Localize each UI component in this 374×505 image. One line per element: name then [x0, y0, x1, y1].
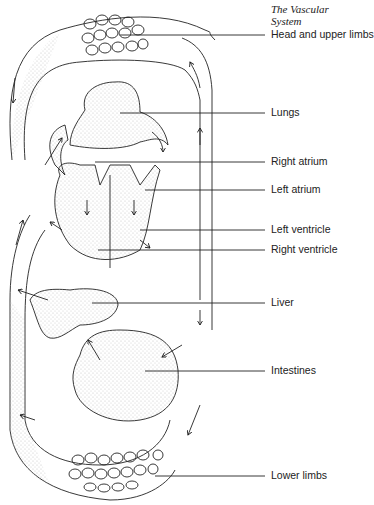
lungs	[70, 82, 168, 149]
label-left-atrium: Left atrium	[271, 183, 321, 195]
label-right-atrium: Right atrium	[271, 155, 328, 167]
heart	[55, 163, 160, 259]
label-lower-limbs: Lower limbs	[271, 469, 327, 481]
lower-limb-capillaries	[69, 450, 163, 492]
label-liver: Liver	[271, 296, 294, 308]
label-lungs: Lungs	[271, 106, 300, 118]
intestines	[73, 330, 178, 421]
label-left-ventricle: Left ventricle	[271, 223, 331, 235]
liver	[30, 289, 118, 338]
label-head-and-upper-limbs: Head and upper limbs	[271, 28, 374, 40]
label-right-ventricle: Right ventricle	[271, 243, 338, 255]
label-intestines: Intestines	[271, 364, 316, 376]
